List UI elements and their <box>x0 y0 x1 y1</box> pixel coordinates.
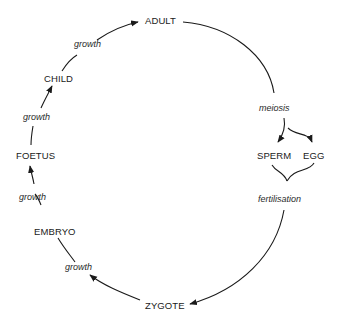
process-growth-child-adult: growth <box>74 40 101 49</box>
cycle-arrows <box>0 0 338 326</box>
process-growth-zygote-embryo: growth <box>65 263 92 272</box>
stage-embryo: EMBRYO <box>34 227 76 237</box>
arrow-meiosis-egg <box>288 128 312 142</box>
arrow-growth-foetus <box>30 166 34 184</box>
stage-foetus: FOETUS <box>16 151 55 161</box>
process-growth-embryo-foetus: growth <box>19 193 46 202</box>
arrow-meiosis-sperm <box>278 118 285 142</box>
stage-sperm: SPERM <box>257 151 291 161</box>
line-growth-embryo <box>58 238 75 262</box>
stage-adult: ADULT <box>145 16 176 26</box>
line-child-growth <box>62 55 77 71</box>
arrow-fertilisation-zygote <box>190 210 284 304</box>
process-meiosis: meiosis <box>259 104 290 113</box>
arrow-zygote-growth <box>90 275 140 300</box>
stage-child: CHILD <box>44 74 73 84</box>
life-cycle-diagram: ADULT CHILD FOETUS EMBRYO ZYGOTE SPERM E… <box>0 0 338 326</box>
process-growth-foetus-child: growth <box>23 113 50 122</box>
arrow-growth-adult <box>97 22 138 40</box>
arc-adult-meiosis <box>183 22 274 93</box>
stage-egg: EGG <box>303 151 324 161</box>
stage-zygote: ZYGOTE <box>145 301 185 311</box>
arrow-growth-child <box>41 86 52 108</box>
merge-egg <box>287 163 314 181</box>
merge-sperm <box>272 165 287 181</box>
process-fertilisation: fertilisation <box>258 195 301 204</box>
line-foetus-growth <box>31 126 33 145</box>
